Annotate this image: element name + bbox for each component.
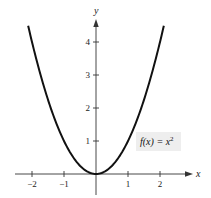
y-tick-label: 1 <box>86 136 91 146</box>
y-ticks: 1234 <box>86 37 100 146</box>
x-tick-label: 1 <box>126 179 131 189</box>
x-axis-arrow-icon <box>185 171 193 176</box>
chart: x y −2−112 1234 f(x) = x2 <box>0 0 211 198</box>
y-axis: y <box>93 5 99 195</box>
x-tick-label: 2 <box>158 179 163 189</box>
y-axis-label: y <box>93 5 99 16</box>
y-tick-label: 4 <box>86 37 91 47</box>
function-label-text: f(x) = x2 <box>140 135 174 148</box>
function-label-main: f(x) = x <box>140 136 171 148</box>
y-tick-label: 2 <box>86 103 91 113</box>
x-tick-label: −2 <box>27 179 37 189</box>
y-axis-arrow-icon <box>93 19 98 27</box>
function-label-superscript: 2 <box>170 135 174 143</box>
function-label: f(x) = x2 <box>136 132 181 151</box>
x-axis-label: x <box>195 168 201 179</box>
x-tick-label: −1 <box>59 179 69 189</box>
y-tick-label: 3 <box>86 70 91 80</box>
